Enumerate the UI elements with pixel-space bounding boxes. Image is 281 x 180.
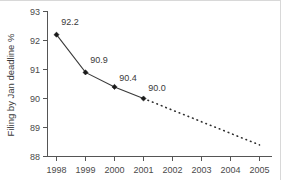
series-line-projection xyxy=(144,99,260,145)
series-line-actual xyxy=(57,35,144,99)
y-tick-label-90: 90 xyxy=(30,94,40,104)
chart-container: Filing by Jan deadline % 93 92 91 90 89 … xyxy=(0,0,281,180)
y-tick-label-92: 92 xyxy=(30,36,40,46)
x-tick-label-2002: 2002 xyxy=(162,165,182,175)
data-point-markers xyxy=(54,32,146,101)
x-tick-label-2004: 2004 xyxy=(220,165,240,175)
x-tick-label-2000: 2000 xyxy=(104,165,124,175)
data-label-2000: 90.4 xyxy=(119,73,137,83)
y-tick-label-91: 91 xyxy=(30,65,40,75)
data-label-2001: 90.0 xyxy=(148,83,166,93)
x-tick-label-2003: 2003 xyxy=(191,165,211,175)
x-tick-label-1999: 1999 xyxy=(75,165,95,175)
data-point-marker xyxy=(141,96,146,101)
line-chart-plot: Filing by Jan deadline % 93 92 91 90 89 … xyxy=(0,1,281,180)
y-axis-title: Filing by Jan deadline % xyxy=(5,33,16,137)
x-tick-label-2001: 2001 xyxy=(133,165,153,175)
data-label-1998: 92.2 xyxy=(61,17,79,27)
y-tick-label-89: 89 xyxy=(30,123,40,133)
x-tick-label-2005: 2005 xyxy=(249,165,269,175)
x-tick-label-1998: 1998 xyxy=(46,165,66,175)
y-tick-label-93: 93 xyxy=(30,7,40,17)
y-tick-label-88: 88 xyxy=(30,152,40,162)
data-point-marker xyxy=(112,84,117,89)
data-label-1999: 90.9 xyxy=(90,55,108,65)
